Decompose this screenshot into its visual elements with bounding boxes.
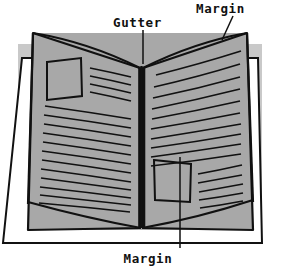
gutter-label: Gutter bbox=[113, 15, 162, 30]
book-layout-diagram: Gutter Margin Margin bbox=[0, 0, 282, 268]
margin-top-right-label: Margin bbox=[196, 1, 245, 16]
diagram-canvas: Gutter Margin Margin bbox=[0, 0, 282, 268]
margin-bottom-label: Margin bbox=[124, 251, 173, 266]
